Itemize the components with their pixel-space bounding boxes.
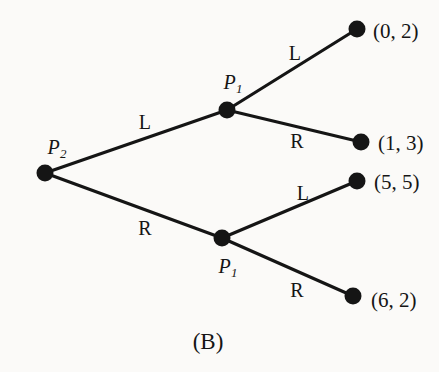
edge-p1-lower-left-action-label: L [297, 183, 309, 203]
edge-p1-lower-right-action-label: R [290, 280, 304, 300]
edge-layer [45, 29, 361, 296]
decision-node-p1-lower-player-label: P1 [218, 256, 237, 279]
edge-p2-left [45, 110, 227, 173]
edge-p2-left-action-label: L [139, 112, 151, 132]
decision-node-p1-upper-player-label: P1 [223, 72, 242, 95]
terminal-node-1-3 [353, 134, 370, 151]
decision-node-p2-player-label: P2 [47, 137, 66, 160]
player-subscript: 2 [60, 147, 67, 162]
node-layer [37, 21, 370, 305]
edge-p1-upper-right-action-label: R [290, 131, 304, 151]
edge-p1-lower-right [222, 238, 353, 296]
player-subscript: 1 [236, 82, 243, 97]
terminal-node-5-5 [349, 173, 366, 190]
decision-node-p1-lower [214, 230, 231, 247]
game-tree-figure: LRLRLRP2P1P1(0, 2)(1, 3)(5, 5)(6, 2) (B) [0, 0, 439, 372]
terminal-node-0-2-payoff-label: (0, 2) [373, 21, 419, 42]
terminal-node-1-3-payoff-label: (1, 3) [378, 133, 424, 154]
terminal-node-6-2 [345, 288, 362, 305]
player-subscript: 1 [231, 266, 238, 281]
edge-p2-right-action-label: R [138, 218, 152, 238]
edge-p1-upper-left-action-label: L [289, 43, 301, 63]
terminal-node-6-2-payoff-label: (6, 2) [371, 290, 417, 311]
decision-node-p1-upper [219, 102, 236, 119]
edge-p2-right [45, 173, 222, 238]
terminal-node-5-5-payoff-label: (5, 5) [374, 172, 420, 193]
terminal-node-0-2 [349, 21, 366, 38]
edge-p1-lower-left [222, 181, 357, 238]
decision-node-p2 [37, 165, 54, 182]
figure-caption: (B) [193, 330, 224, 353]
